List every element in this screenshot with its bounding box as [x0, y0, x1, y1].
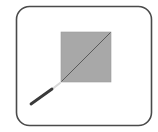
slice-square-tool-icon	[0, 0, 158, 132]
